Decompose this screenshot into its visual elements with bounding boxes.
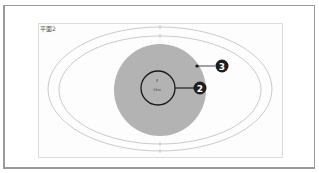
callout-3-badge: 3 bbox=[216, 60, 229, 73]
center-label: 15m bbox=[153, 88, 161, 92]
diagram-canvas: 15m 2 3 bbox=[0, 0, 319, 173]
callout-2-number: 2 bbox=[197, 84, 203, 94]
callout-3-number: 3 bbox=[219, 62, 225, 72]
callout-2-badge: 2 bbox=[194, 82, 207, 95]
